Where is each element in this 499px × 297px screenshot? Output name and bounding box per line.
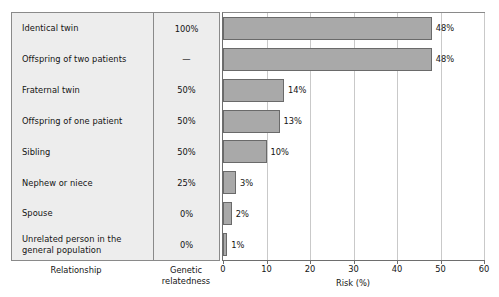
x-tick-label-0: 0 [220, 264, 225, 274]
table-cell-genetic-relatedness: 0% [154, 198, 219, 229]
table-row: Offspring of one patient50% [12, 106, 219, 137]
bar-value-label: 3% [240, 171, 253, 194]
table-row: Fraternal twin50% [12, 75, 219, 106]
x-axis-title: Risk (%) [336, 278, 370, 288]
table-cell-relationship: Spouse [22, 198, 150, 229]
table-cell-genetic-relatedness: 50% [154, 75, 219, 106]
genetic-footer-line2: relatedness [162, 276, 210, 286]
table-cell-genetic-relatedness: 100% [154, 13, 219, 44]
bar [223, 171, 236, 194]
bar [223, 233, 227, 256]
bar-value-label: 48% [436, 17, 454, 40]
bar [223, 17, 432, 40]
bar [223, 48, 432, 71]
table-cell-relationship: Fraternal twin [22, 75, 150, 106]
bar [223, 202, 232, 225]
table-row: Spouse0% [12, 198, 219, 229]
table-row: Offspring of two patients— [12, 44, 219, 75]
column-footer-genetic-relatedness: Genetic relatedness [162, 265, 210, 287]
table-cell-genetic-relatedness: 50% [154, 137, 219, 168]
bar-value-label: 1% [231, 233, 244, 256]
bar-chart-plot-area: 48%48%14%13%10%3%2%1% [222, 12, 485, 261]
x-tick-label-10: 10 [261, 264, 272, 274]
table-row: Nephew or niece25% [12, 167, 219, 198]
table-cell-genetic-relatedness: — [154, 44, 219, 75]
table-cell-relationship: Offspring of one patient [22, 106, 150, 137]
table-cell-genetic-relatedness: 25% [154, 167, 219, 198]
table-cell-genetic-relatedness: 50% [154, 106, 219, 137]
table-cell-relationship: Offspring of two patients [22, 44, 150, 75]
bar [223, 140, 267, 163]
bar-value-label: 13% [284, 110, 302, 133]
x-tick-label-20: 20 [305, 264, 316, 274]
bar [223, 79, 284, 102]
bar-value-label: 14% [288, 79, 306, 102]
x-tick-label-30: 30 [348, 264, 359, 274]
table-cell-relationship: Nephew or niece [22, 167, 150, 198]
bar-value-label: 10% [271, 140, 289, 163]
table-cell-relationship: Unrelated person in the general populati… [22, 229, 150, 260]
gridline-60 [484, 13, 485, 260]
x-tick-label-40: 40 [392, 264, 403, 274]
genetic-footer-line1: Genetic [170, 265, 202, 275]
table-cell-genetic-relatedness: 0% [154, 229, 219, 260]
table-cell-relationship: Sibling [22, 137, 150, 168]
table-row: Identical twin100% [12, 13, 219, 44]
table-row: Sibling50% [12, 137, 219, 168]
x-tick-label-60: 60 [479, 264, 490, 274]
bar [223, 110, 280, 133]
relationship-table: Identical twin100%Offspring of two patie… [11, 12, 220, 261]
table-row: Unrelated person in the general populati… [12, 229, 219, 260]
column-footer-relationship: Relationship [51, 265, 102, 276]
table-cell-relationship: Identical twin [22, 13, 150, 44]
figure-container: Identical twin100%Offspring of two patie… [0, 0, 499, 297]
bar-value-label: 2% [236, 202, 249, 225]
x-tick-label-50: 50 [435, 264, 446, 274]
bar-value-label: 48% [436, 48, 454, 71]
